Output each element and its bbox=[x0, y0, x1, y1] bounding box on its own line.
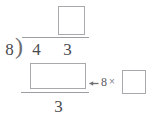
division-bracket-icon: ) bbox=[15, 36, 24, 58]
annotation-factor-label: 8 bbox=[101, 76, 107, 88]
multiplication-sign-icon: × bbox=[109, 76, 115, 88]
dividend-digit-ones: 3 bbox=[61, 41, 74, 58]
quotient-input-box[interactable] bbox=[58, 6, 85, 35]
remainder-digit: 3 bbox=[52, 98, 65, 115]
product-annotation: 8 × bbox=[89, 74, 115, 90]
long-division-worksheet: ) 8 4 3 3 8 × bbox=[0, 0, 154, 122]
product-input-box[interactable] bbox=[30, 63, 86, 89]
multiplier-input-box[interactable] bbox=[122, 70, 146, 94]
divisor-digit: 8 bbox=[3, 41, 16, 58]
subtraction-rule bbox=[21, 92, 89, 93]
division-overbar-rule bbox=[22, 37, 89, 38]
left-arrow-icon bbox=[89, 78, 99, 87]
dividend-digit-tens: 4 bbox=[30, 41, 43, 58]
